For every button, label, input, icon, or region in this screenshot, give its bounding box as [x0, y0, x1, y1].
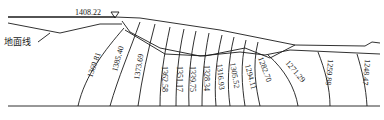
ground-line-label: 地面线	[4, 36, 31, 47]
svg-text:1259.88: 1259.88	[324, 59, 335, 86]
contour-label-3: 1373.69	[132, 53, 145, 80]
svg-text:1385.40: 1385.40	[110, 45, 125, 72]
svg-text:1316.93: 1316.93	[215, 63, 226, 90]
svg-text:1369.81: 1369.81	[85, 51, 102, 79]
contour-label-11: 1282.70	[256, 56, 273, 84]
svg-text:1362.58: 1362.58	[160, 66, 169, 92]
contour-label-5: 1351.17	[175, 66, 184, 92]
dam-upper-boundary	[115, 17, 380, 46]
svg-text:1373.69: 1373.69	[132, 53, 145, 80]
contour-label-6: 1339.75	[188, 66, 197, 92]
contour-label-8: 1316.93	[215, 63, 226, 90]
svg-text:1339.75: 1339.75	[188, 66, 197, 92]
contour-label-1: 1369.81	[85, 51, 102, 79]
contour-label-12: 1271.29	[283, 59, 307, 85]
equipotential-line-11	[255, 42, 260, 106]
flow-net-diagram: 1408.22 地面线 1369.81 1385.40 1373.69 1362…	[0, 0, 384, 120]
svg-text:1328.34: 1328.34	[202, 65, 211, 91]
contour-label-7: 1328.34	[202, 65, 211, 91]
ground-line	[8, 23, 122, 33]
svg-text:1351.17: 1351.17	[175, 66, 184, 92]
svg-text:1248.47: 1248.47	[361, 59, 372, 86]
contour-label-13: 1259.88	[324, 59, 335, 86]
contour-label-14: 1248.47	[361, 59, 372, 86]
ground-line-pointer	[38, 33, 50, 42]
svg-text:1282.70: 1282.70	[256, 56, 273, 84]
contour-label-9: 1305.52	[228, 62, 241, 89]
contour-label-2: 1385.40	[110, 45, 125, 72]
water-level-label: 1408.22	[75, 8, 101, 17]
contour-label-4: 1362.58	[160, 66, 169, 92]
contour-label-10: 1294.11	[243, 63, 258, 90]
svg-text:1294.11: 1294.11	[243, 63, 258, 90]
svg-text:1271.29: 1271.29	[283, 59, 307, 85]
svg-text:1305.52: 1305.52	[228, 62, 241, 89]
